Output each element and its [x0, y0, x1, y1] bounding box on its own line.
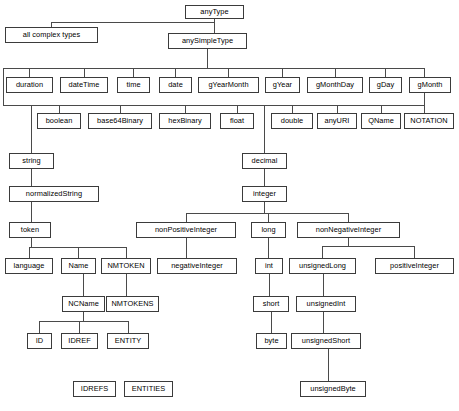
connector-name-to-ncname	[83, 274, 84, 297]
type-node-allComplexTypes[interactable]: all complex types	[5, 27, 98, 43]
type-node-nonPositiveInteger[interactable]: nonPositiveInteger	[136, 222, 236, 238]
type-node-anyURI[interactable]: anyURI	[317, 113, 357, 129]
type-node-QName[interactable]: QName	[361, 113, 401, 129]
connector-unsignedint-to-short	[323, 312, 324, 334]
type-node-gMonthDay[interactable]: gMonthDay	[307, 77, 363, 93]
xml-schema-type-hierarchy-diagram: anyTypeall complex typesanySimpleTypedur…	[0, 0, 459, 411]
connector-gyearmonth-stem	[228, 68, 229, 77]
connector-anysimpletype-stem-in	[214, 22, 215, 33]
type-node-NMTOKEN[interactable]: NMTOKEN	[101, 258, 151, 274]
connector-long-to-int	[268, 238, 269, 259]
type-node-date[interactable]: date	[159, 77, 192, 93]
type-node-double[interactable]: double	[271, 113, 313, 129]
connector-numeric-bus	[3, 105, 425, 106]
connector-string-to-normalized	[31, 169, 32, 187]
type-node-base64Binary[interactable]: base64Binary	[88, 113, 152, 129]
type-node-duration[interactable]: duration	[6, 77, 53, 93]
connector-datetime-stem	[84, 68, 85, 77]
type-node-string[interactable]: string	[9, 153, 54, 169]
type-node-anySimpleType[interactable]: anySimpleType	[168, 33, 247, 49]
connector-time-stem	[133, 68, 134, 77]
connector-decimal-to-integer	[264, 169, 265, 187]
type-node-long[interactable]: long	[251, 222, 286, 238]
connector-gmonthday-stem	[335, 68, 336, 77]
connector-decimal-branch	[264, 105, 265, 154]
connector-nonpositive-to-negative	[186, 238, 187, 259]
type-node-integer[interactable]: integer	[242, 186, 287, 202]
connector-nonneg-bus	[322, 246, 415, 247]
connector-normalized-to-token	[31, 202, 32, 223]
type-node-short[interactable]: short	[253, 296, 289, 312]
type-node-byte[interactable]: byte	[256, 333, 287, 349]
connector-left-drop-to-bus2	[3, 68, 4, 105]
connector-anytype-bus	[51, 22, 215, 23]
type-node-token[interactable]: token	[9, 222, 51, 238]
type-node-unsignedInt[interactable]: unsignedInt	[296, 296, 356, 312]
connector-duration-stem	[29, 68, 30, 77]
connector-nonneg-stem-down	[348, 238, 349, 246]
type-node-gMonth[interactable]: gMonth	[409, 77, 451, 93]
connector-unsignedshort-to-byte	[328, 349, 329, 382]
type-node-int[interactable]: int	[255, 258, 283, 274]
connector-short-to-byte	[271, 312, 272, 334]
type-node-IDREFS[interactable]: IDREFS	[73, 381, 116, 397]
connector-integer-stem-down	[264, 202, 265, 213]
connector-gday-stem	[385, 68, 386, 77]
type-node-time[interactable]: time	[117, 77, 150, 93]
connector-token-stem-down	[31, 238, 32, 247]
connector-datetime-bus	[3, 68, 425, 69]
type-node-gYearMonth[interactable]: gYearMonth	[198, 77, 259, 93]
type-node-Name[interactable]: Name	[61, 258, 96, 274]
type-node-NCName[interactable]: NCName	[62, 296, 105, 312]
type-node-NMTOKENS[interactable]: NMTOKENS	[106, 296, 159, 312]
type-node-gYear[interactable]: gYear	[265, 77, 300, 93]
type-node-hexBinary[interactable]: hexBinary	[159, 113, 211, 129]
connector-anysimpletype-stem-out	[207, 49, 208, 68]
type-node-IDREF[interactable]: IDREF	[61, 333, 98, 349]
connector-nmtoken-to-nmtokens	[126, 274, 127, 297]
type-node-ENTITIES[interactable]: ENTITIES	[124, 381, 173, 397]
type-node-decimal[interactable]: decimal	[242, 153, 287, 169]
type-node-nonNegativeInteger[interactable]: nonNegativeInteger	[297, 222, 400, 238]
connector-string-branch	[31, 105, 32, 154]
connector-ncname-bus	[39, 321, 128, 322]
type-node-boolean[interactable]: boolean	[37, 113, 81, 129]
type-node-unsignedByte[interactable]: unsignedByte	[300, 381, 366, 397]
type-node-anyType[interactable]: anyType	[185, 5, 244, 19]
type-node-unsignedLong[interactable]: unsignedLong	[289, 258, 356, 274]
connector-unsignedlong-to-int	[323, 274, 324, 297]
type-node-gDay[interactable]: gDay	[369, 77, 402, 93]
connector-gyear-stem	[282, 68, 283, 77]
connector-int-to-short	[269, 274, 270, 297]
type-node-ENTITY[interactable]: ENTITY	[107, 333, 149, 349]
type-node-dateTime[interactable]: dateTime	[60, 77, 108, 93]
type-node-NOTATION[interactable]: NOTATION	[404, 113, 454, 129]
type-node-language[interactable]: language	[5, 258, 53, 274]
connector-date-stem	[175, 68, 176, 77]
type-node-negativeInteger[interactable]: negativeInteger	[157, 258, 237, 274]
type-node-unsignedShort[interactable]: unsignedShort	[291, 333, 361, 349]
connector-ncname-stem-down	[83, 312, 84, 321]
type-node-normalizedString[interactable]: normalizedString	[9, 186, 99, 202]
type-node-ID[interactable]: ID	[27, 333, 52, 349]
type-node-float[interactable]: float	[220, 113, 254, 129]
type-node-positiveInteger[interactable]: positiveInteger	[375, 258, 454, 274]
